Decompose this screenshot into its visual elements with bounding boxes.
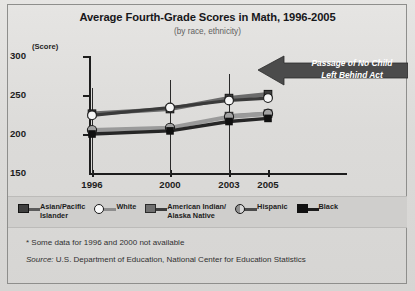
legend-marker-square-dark-icon: [18, 203, 40, 214]
legend-label-black: Black: [319, 202, 338, 211]
y-axis-unit-label: (Score): [32, 42, 58, 51]
chart-page: Average Fourth-Grade Scores in Math, 199…: [0, 0, 415, 291]
footnote-note: * Some data for 1996 and 2000 not availa…: [26, 238, 184, 247]
source-prefix: Source:: [26, 255, 54, 264]
legend-item-hispanic[interactable]: Hispanic: [235, 202, 287, 214]
legend-item-black[interactable]: Black: [297, 202, 338, 214]
legend-item-white[interactable]: White: [94, 202, 136, 214]
legend-label-line2: Islander: [40, 211, 68, 220]
chart-legend: Asian/Pacific Islander White American In…: [8, 196, 407, 228]
legend-label-line1: Asian/Pacific: [40, 202, 85, 211]
annotation-text: Passage of No Child Left Behind Act: [298, 58, 406, 81]
legend-marker-circle-open-icon: [94, 203, 116, 214]
annotation-line-2: Left Behind Act: [298, 70, 406, 82]
legend-item-american-indian-alaska-native[interactable]: American Indian/ Alaska Native: [145, 202, 226, 221]
x-tick-label-2000: 2000: [147, 179, 193, 190]
legend-label-line2: Alaska Native: [167, 211, 214, 220]
source-text: U.S. Department of Education, National C…: [56, 255, 306, 264]
x-tick-label-2005: 2005: [245, 179, 291, 190]
y-tick-label-150: 150: [0, 167, 26, 178]
y-tick-label-300: 300: [0, 50, 26, 61]
legend-label-white: White: [116, 202, 136, 211]
legend-marker-square-gray-icon: [145, 203, 167, 214]
annotation-line-1: Passage of No Child: [298, 58, 406, 70]
annotation-callout: Passage of No Child Left Behind Act: [258, 54, 408, 86]
line-asian-pacific-islander: [92, 94, 268, 114]
legend-item-asian-pacific-islander[interactable]: Asian/Pacific Islander: [18, 202, 85, 221]
legend-label-hispanic: Hispanic: [257, 202, 287, 211]
page-subtitle: (by race, ethnicity): [0, 27, 415, 36]
legend-marker-circle-half-icon: [235, 203, 257, 214]
legend-label-line1: American Indian/: [167, 202, 226, 211]
page-title: Average Fourth-Grade Scores in Math, 199…: [0, 11, 415, 23]
x-tick-label-1996: 1996: [69, 179, 115, 190]
y-tick-label-200: 200: [0, 128, 26, 139]
legend-marker-square-black-icon: [297, 203, 319, 214]
y-tick-label-250: 250: [0, 89, 26, 100]
line-white: [92, 98, 268, 115]
footnote-source: Source: U.S. Department of Education, Na…: [26, 255, 306, 264]
